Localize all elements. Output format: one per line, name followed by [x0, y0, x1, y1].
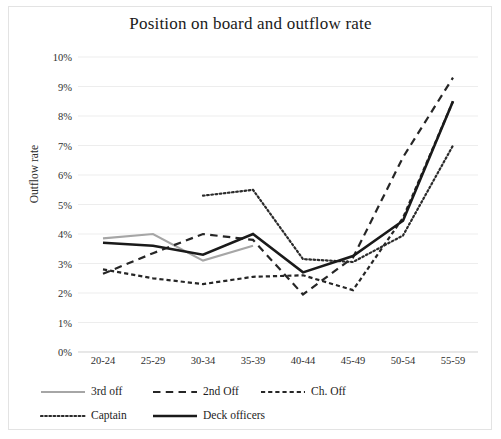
legend-label: 2nd Off: [203, 386, 239, 398]
series-line-3rd-off: [103, 234, 253, 261]
legend-label: Deck officers: [203, 410, 265, 422]
chart-legend: 3rd off2nd OffCh. OffCaptainDeck officer…: [40, 381, 470, 431]
legend-item-2nd-off[interactable]: 2nd Off: [152, 381, 239, 403]
legend-label: 3rd off: [91, 386, 122, 398]
legend-swatch-dotted: [40, 411, 86, 421]
series-line-deck-officers: [103, 101, 453, 272]
legend-row: CaptainDeck officers: [40, 405, 470, 427]
legend-swatch-dashed-long: [152, 387, 198, 397]
legend-item-captain[interactable]: Captain: [40, 405, 127, 427]
legend-swatch-dashed-short: [260, 387, 306, 397]
series-line-2nd-off: [103, 78, 453, 295]
legend-label: Ch. Off: [311, 386, 346, 398]
legend-item-3rd-off[interactable]: 3rd off: [40, 381, 122, 403]
series-line-captain: [203, 146, 453, 263]
chart-container: Position on board and outflow rate Outfl…: [0, 0, 501, 439]
legend-swatch-solid: [40, 387, 86, 397]
legend-label: Captain: [91, 410, 127, 422]
plot-area: [0, 0, 501, 439]
legend-swatch-solid: [152, 411, 198, 421]
series-line-ch-off: [103, 101, 453, 290]
legend-row: 3rd off2nd OffCh. Off: [40, 381, 470, 403]
legend-item-ch-off[interactable]: Ch. Off: [260, 381, 346, 403]
legend-item-deck-officers[interactable]: Deck officers: [152, 405, 265, 427]
